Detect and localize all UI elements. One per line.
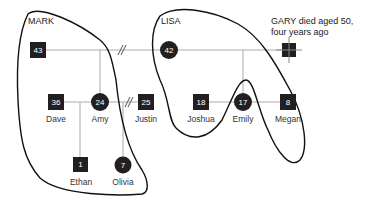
svg-text:7: 7	[121, 161, 126, 170]
person-dave[interactable]: 36 Dave	[46, 94, 66, 124]
svg-text:1: 1	[78, 160, 83, 169]
person-olivia[interactable]: 7 Olivia	[112, 157, 134, 188]
person-mark[interactable]: 43	[30, 42, 46, 58]
person-megan[interactable]: 8 Megan	[275, 94, 301, 124]
svg-text:42: 42	[165, 46, 174, 55]
household-label-mark: MARK	[28, 16, 54, 26]
person-amy[interactable]: 24 Amy	[91, 93, 109, 124]
svg-text:Dave: Dave	[46, 114, 66, 124]
person-gary-deceased[interactable]	[276, 37, 302, 63]
person-joshua[interactable]: 18 Joshua	[187, 94, 215, 124]
svg-text:Justin: Justin	[135, 114, 157, 124]
svg-text:18: 18	[197, 98, 206, 107]
person-justin[interactable]: 25 Justin	[135, 94, 157, 124]
svg-text:8: 8	[286, 98, 291, 107]
svg-text:Ethan: Ethan	[70, 177, 92, 187]
svg-text:17: 17	[239, 98, 248, 107]
annotation-gary-line2: four years ago	[271, 27, 329, 37]
svg-text:Joshua: Joshua	[187, 114, 215, 124]
genogram-diagram: MARK LISA GARY died aged 50, four years …	[0, 0, 365, 202]
svg-text:43: 43	[34, 46, 43, 55]
svg-text:24: 24	[96, 98, 105, 107]
svg-text:36: 36	[52, 98, 61, 107]
svg-text:Amy: Amy	[92, 114, 110, 124]
person-emily[interactable]: 17 Emily	[233, 93, 255, 124]
svg-text:Emily: Emily	[233, 114, 255, 124]
person-ethan[interactable]: 1 Ethan	[70, 157, 92, 187]
annotation-gary-line1: GARY died aged 50,	[271, 16, 353, 26]
person-lisa[interactable]: 42	[160, 41, 178, 59]
svg-text:Megan: Megan	[275, 114, 301, 124]
svg-text:25: 25	[142, 98, 151, 107]
svg-text:Olivia: Olivia	[112, 177, 134, 187]
household-label-lisa: LISA	[161, 16, 181, 26]
